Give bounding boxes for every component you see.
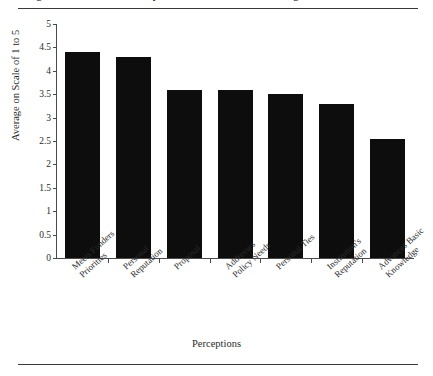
bar	[268, 94, 303, 258]
y-tick-mark	[53, 258, 57, 259]
y-tick-mark	[53, 71, 57, 72]
x-tick-mark	[159, 258, 160, 263]
y-tick-mark	[53, 24, 57, 25]
plot-area: 54.543.532.521.510.50	[57, 24, 413, 258]
y-tick-mark	[53, 94, 57, 95]
x-axis-title: Perceptions	[0, 338, 433, 349]
y-tick-label: 3	[46, 113, 51, 123]
y-tick-label: 0	[46, 253, 51, 263]
bar	[218, 90, 253, 258]
y-tick-label: 1	[46, 206, 51, 216]
y-tick-label: 0.5	[39, 230, 51, 240]
y-tick-mark	[53, 211, 57, 212]
y-tick-label: 1.5	[39, 183, 51, 193]
bar	[319, 104, 354, 258]
bar	[167, 90, 202, 258]
bar-chart: Average on Scale of 1 to 5 54.543.532.52…	[0, 0, 433, 376]
y-tick-label: 4.5	[39, 42, 51, 52]
y-tick-label: 5	[46, 19, 51, 29]
y-axis-title: Average on Scale of 1 to 5	[10, 30, 21, 141]
y-tick-mark	[53, 118, 57, 119]
bar	[65, 52, 100, 258]
bar	[116, 57, 151, 258]
y-tick-label: 2.5	[39, 136, 51, 146]
y-tick-mark	[53, 188, 57, 189]
x-tick-mark	[210, 258, 211, 263]
x-tick-mark	[362, 258, 363, 263]
y-tick-mark	[53, 141, 57, 142]
x-tick-mark	[311, 258, 312, 263]
y-tick-label: 3.5	[39, 89, 51, 99]
y-tick-mark	[53, 235, 57, 236]
y-tick-mark	[53, 164, 57, 165]
x-tick-mark	[260, 258, 261, 263]
x-tick-mark	[108, 258, 109, 263]
y-tick-label: 2	[46, 159, 51, 169]
y-tick-label: 4	[46, 66, 51, 76]
y-tick-mark	[53, 47, 57, 48]
bar	[370, 139, 405, 258]
